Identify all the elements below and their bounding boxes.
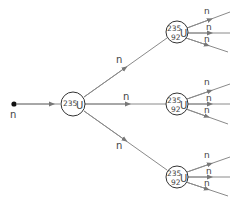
primary-nucleus: 235 U xyxy=(61,92,85,116)
element-symbol: U xyxy=(180,28,187,39)
element-symbol: U xyxy=(180,173,187,184)
out-n-label: n xyxy=(204,6,210,16)
secondary-nucleus-middle: n n n 235 92 U xyxy=(166,77,230,124)
primary-branches: n n n xyxy=(84,38,167,170)
secondary-nucleus-bottom: n n n 235 92 U xyxy=(166,150,230,196)
neutron-dot xyxy=(11,101,16,106)
element-symbol: U xyxy=(76,100,83,111)
out-n-label: n xyxy=(204,34,210,44)
out-n-label: n xyxy=(204,150,210,160)
branch-label-top: n xyxy=(116,54,122,65)
out-n-label: n xyxy=(204,105,210,115)
out-n-label: n xyxy=(206,22,212,32)
neutron-label: n xyxy=(10,109,16,120)
out-n-label: n xyxy=(206,93,212,103)
out-n-label: n xyxy=(206,166,212,176)
out-n-label: n xyxy=(204,77,210,87)
branch-label-bottom: n xyxy=(116,140,122,151)
incoming-neutron: n xyxy=(10,101,60,120)
element-symbol: U xyxy=(180,100,187,111)
secondary-nucleus-top: n n n 235 92 U xyxy=(166,6,230,52)
branch-label-middle: n xyxy=(123,91,129,102)
out-n-label: n xyxy=(204,178,210,188)
fission-chain-diagram: n n n n 235 U n n n 235 92 U xyxy=(0,0,238,207)
